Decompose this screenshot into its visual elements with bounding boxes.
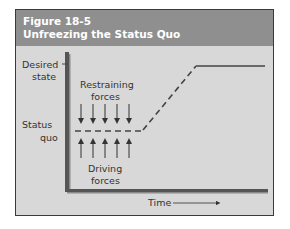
driving-arrows xyxy=(81,141,129,158)
desired-state-label-2: state xyxy=(32,71,56,82)
x-axis-label: Time xyxy=(148,197,171,208)
status-quo-label-2: quo xyxy=(40,132,58,143)
restraining-forces-label-1: Restraining xyxy=(80,79,134,90)
restraining-forces-label-2: forces xyxy=(91,91,120,102)
driving-forces-label-2: forces xyxy=(91,175,120,186)
desired-state-label-1: Desired xyxy=(22,59,58,70)
x-axis xyxy=(65,189,268,194)
y-axis xyxy=(62,52,71,192)
driving-forces-label-1: Driving xyxy=(88,163,122,174)
transition-line xyxy=(143,66,196,130)
restraining-arrows xyxy=(81,104,129,121)
force-field-diagram xyxy=(0,0,290,229)
status-quo-label-1: Status xyxy=(22,119,52,130)
